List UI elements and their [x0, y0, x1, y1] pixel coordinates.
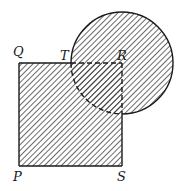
- label-r: R: [116, 48, 127, 63]
- label-q: Q: [13, 44, 24, 59]
- label-s: S: [117, 169, 126, 184]
- geometry-diagram: Q T R P S: [0, 0, 189, 191]
- label-p: P: [12, 169, 22, 184]
- shaded-region: [19, 12, 173, 166]
- label-t: T: [60, 48, 70, 63]
